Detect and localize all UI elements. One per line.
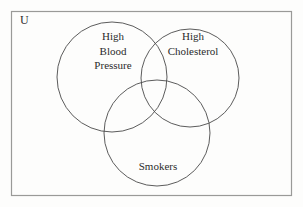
label-smokers: Smokers xyxy=(118,159,198,174)
label-high-cholesterol: High Cholesterol xyxy=(152,29,234,58)
venn-diagram-canvas: U High Blood Pressure High Cholesterol S… xyxy=(0,0,303,207)
label-high-blood-pressure: High Blood Pressure xyxy=(78,29,148,73)
universe-label: U xyxy=(20,14,29,26)
